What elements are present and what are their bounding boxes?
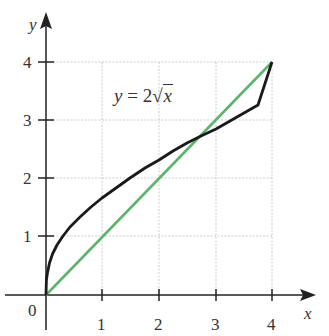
annotation-equals-2: = 2 <box>127 85 152 106</box>
x-tick-label-4: 4 <box>267 316 276 333</box>
x-tick-label-3: 3 <box>211 316 220 333</box>
curve-annotation: y = 2√x <box>114 86 173 105</box>
annotation-x: x <box>163 84 173 106</box>
axes <box>5 22 305 330</box>
plot-area <box>0 0 329 336</box>
y-tick-label-3: 3 <box>23 112 32 129</box>
y-axis-label: y <box>29 16 37 33</box>
y-tick-label-4: 4 <box>23 54 32 71</box>
y-tick-label-2: 2 <box>23 170 32 187</box>
x-axis-label: x <box>304 305 312 322</box>
origin-label: 0 <box>28 302 37 319</box>
y-tick-label-1: 1 <box>23 228 32 245</box>
x-tick-label-1: 1 <box>97 316 106 333</box>
x-tick-label-2: 2 <box>154 316 163 333</box>
annotation-y: y <box>114 85 122 106</box>
sqrt-icon: √ <box>152 85 162 106</box>
